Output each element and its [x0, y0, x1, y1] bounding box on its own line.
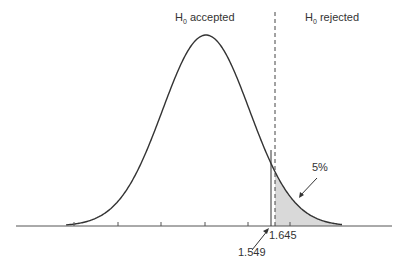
h0-accepted-label: H0 accepted	[175, 11, 235, 25]
h0-rejected-label: H0 rejected	[305, 11, 359, 25]
critical-value-label: 1.645	[269, 229, 297, 241]
normal-distribution-diagram	[0, 0, 407, 274]
observed-value-label: 1.549	[238, 246, 266, 258]
axis-ticks	[74, 222, 290, 226]
percent-arrow	[300, 178, 317, 196]
rejection-region-shading	[275, 172, 342, 226]
tail-percent-label: 5%	[312, 161, 328, 173]
